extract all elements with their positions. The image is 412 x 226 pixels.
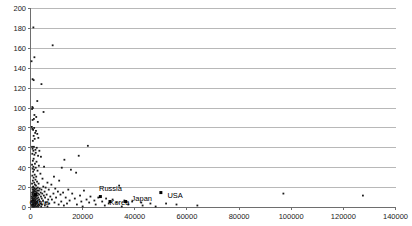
data-point bbox=[36, 190, 38, 192]
data-point bbox=[53, 176, 55, 178]
data-point bbox=[33, 158, 35, 160]
data-point bbox=[41, 193, 43, 195]
data-point bbox=[35, 185, 37, 187]
highlight-point-china bbox=[34, 193, 37, 196]
label-china: China bbox=[29, 198, 49, 207]
scatter-chart: 020406080100120140160180200 020000400006… bbox=[0, 0, 412, 226]
data-point bbox=[35, 149, 37, 151]
x-tick-label-120000: 120000 bbox=[331, 212, 356, 221]
data-point bbox=[33, 79, 35, 81]
data-point bbox=[50, 184, 52, 186]
data-point bbox=[48, 189, 50, 191]
data-point bbox=[33, 127, 35, 129]
y-tick-label-20: 20 bbox=[18, 183, 26, 192]
data-point bbox=[35, 130, 37, 132]
data-point bbox=[34, 163, 36, 165]
data-point bbox=[32, 129, 34, 131]
data-point bbox=[40, 173, 42, 175]
data-point bbox=[32, 27, 34, 29]
data-point bbox=[54, 188, 56, 190]
y-tick-labels: 020406080100120140160180200 bbox=[13, 4, 26, 212]
x-tick-labels: 020000400006000080000100000120000140000 bbox=[28, 212, 408, 221]
data-point bbox=[83, 190, 85, 192]
data-point bbox=[45, 187, 47, 189]
data-point bbox=[155, 206, 157, 208]
x-tick-label-40000: 40000 bbox=[124, 212, 145, 221]
x-tick-label-140000: 140000 bbox=[383, 212, 408, 221]
data-point bbox=[34, 154, 36, 156]
data-point bbox=[31, 175, 33, 177]
x-tick-label-100000: 100000 bbox=[279, 212, 304, 221]
data-point bbox=[35, 176, 37, 178]
data-point bbox=[34, 56, 36, 58]
data-point bbox=[58, 204, 60, 206]
data-point bbox=[66, 203, 68, 205]
data-point bbox=[38, 183, 40, 185]
data-point bbox=[38, 194, 40, 196]
data-point bbox=[34, 174, 36, 176]
data-point bbox=[43, 111, 45, 113]
data-point bbox=[39, 188, 41, 190]
data-point bbox=[34, 132, 36, 134]
data-point bbox=[71, 193, 73, 195]
data-point bbox=[33, 146, 35, 148]
data-point bbox=[80, 201, 82, 203]
data-point bbox=[105, 198, 107, 200]
data-point bbox=[55, 197, 57, 199]
data-point bbox=[49, 196, 51, 198]
x-tick-label-20000: 20000 bbox=[72, 212, 93, 221]
data-point bbox=[65, 197, 67, 199]
data-point bbox=[95, 204, 97, 206]
data-point bbox=[101, 201, 103, 203]
label-japan: Japan bbox=[132, 194, 152, 203]
data-point bbox=[31, 164, 33, 166]
y-tick-label-160: 160 bbox=[13, 44, 26, 53]
data-point bbox=[35, 179, 37, 181]
plot-area: 020406080100120140160180200 020000400006… bbox=[0, 0, 412, 226]
data-point bbox=[31, 126, 33, 128]
data-point bbox=[282, 193, 284, 195]
data-points-group bbox=[31, 27, 364, 208]
data-point bbox=[90, 196, 92, 198]
data-point bbox=[36, 100, 38, 102]
data-point bbox=[36, 161, 38, 163]
data-point bbox=[33, 135, 35, 137]
data-point bbox=[87, 145, 89, 147]
y-tick-label-60: 60 bbox=[18, 144, 26, 153]
data-point bbox=[31, 60, 33, 62]
data-point bbox=[35, 116, 37, 118]
data-point bbox=[32, 189, 34, 191]
data-point bbox=[52, 44, 54, 46]
data-point bbox=[196, 205, 198, 207]
data-point bbox=[88, 202, 90, 204]
data-point bbox=[60, 201, 62, 203]
data-point bbox=[47, 182, 49, 184]
data-point bbox=[34, 138, 36, 140]
data-point bbox=[43, 195, 45, 197]
data-point bbox=[41, 189, 43, 191]
axes-group bbox=[28, 9, 396, 211]
data-point bbox=[32, 160, 34, 162]
data-point bbox=[35, 152, 37, 154]
y-tick-label-120: 120 bbox=[13, 84, 26, 93]
y-tick-label-0: 0 bbox=[22, 203, 26, 212]
data-point bbox=[58, 180, 60, 182]
y-tick-label-180: 180 bbox=[13, 24, 26, 33]
data-point bbox=[33, 177, 35, 179]
data-point bbox=[57, 191, 59, 193]
data-point bbox=[176, 204, 178, 206]
data-point bbox=[82, 206, 84, 208]
highlight-point-usa bbox=[159, 191, 162, 194]
data-point bbox=[37, 121, 39, 123]
data-point bbox=[70, 169, 72, 171]
data-point bbox=[32, 166, 34, 168]
data-point bbox=[61, 167, 63, 169]
data-point bbox=[42, 186, 44, 188]
data-point bbox=[33, 182, 35, 184]
data-point bbox=[31, 187, 33, 189]
data-point bbox=[31, 146, 33, 148]
data-point bbox=[54, 202, 56, 204]
data-point bbox=[31, 108, 33, 110]
data-point bbox=[32, 119, 34, 121]
data-point bbox=[86, 199, 88, 201]
